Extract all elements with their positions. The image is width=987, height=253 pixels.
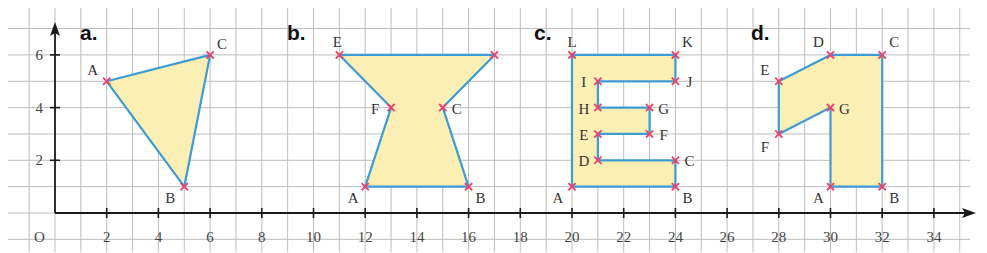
x-tick-label: 6 (206, 229, 214, 245)
coordinate-figure: O 246810121416182022242628303234246 a.AB… (0, 0, 987, 253)
panel-label: b. (287, 21, 306, 44)
point-label: F (371, 101, 379, 117)
point-label: B (682, 190, 692, 206)
x-tick-label: 18 (513, 229, 528, 245)
point-label: C (889, 34, 899, 50)
point-label: C (217, 36, 227, 52)
point-label: H (578, 101, 589, 117)
y-tick-label: 2 (36, 152, 44, 168)
point-label: B (889, 190, 899, 206)
x-tick-label: 24 (668, 229, 684, 245)
x-tick-label: 26 (720, 229, 736, 245)
point-label: I (581, 74, 586, 90)
x-tick-label: 20 (565, 229, 580, 245)
x-tick-label: 34 (926, 229, 942, 245)
point-label: B (476, 190, 486, 206)
point-label: A (553, 190, 564, 206)
x-tick-label: 28 (771, 229, 786, 245)
point-label: B (165, 190, 175, 206)
x-tick-label: 32 (875, 229, 890, 245)
shape-b (339, 55, 494, 187)
point-label: J (686, 74, 692, 90)
point-label: A (813, 190, 824, 206)
panel-label: a. (80, 21, 98, 44)
point-label: D (578, 153, 589, 169)
x-tick-label: 12 (358, 229, 373, 245)
x-tick-label: 16 (461, 229, 477, 245)
point-label: F (659, 127, 667, 143)
point-label: A (87, 62, 98, 78)
point-label: E (333, 34, 342, 50)
point-label: E (760, 62, 769, 78)
point-label: K (682, 34, 693, 50)
x-tick-label: 8 (258, 229, 266, 245)
point-label: A (348, 190, 359, 206)
point-label: C (684, 153, 694, 169)
panel-label: c. (534, 21, 552, 44)
x-tick-label: 2 (103, 229, 111, 245)
x-tick-label: 14 (409, 229, 425, 245)
point-label: F (761, 139, 769, 155)
panel-label: d. (751, 21, 770, 44)
point-label: D (813, 34, 824, 50)
point-label: G (839, 101, 850, 117)
point-label: E (579, 127, 588, 143)
y-tick-label: 4 (36, 100, 44, 116)
point-label: L (567, 34, 576, 50)
point-label: G (658, 101, 669, 117)
y-tick-label: 6 (36, 47, 44, 63)
point-labels: a.ABCb.ABCEFc.ABCDEFGHIJKLd.ABCDEFG (80, 21, 899, 206)
point-label: C (452, 101, 462, 117)
origin-label: O (34, 229, 45, 245)
x-tick-label: 30 (823, 229, 838, 245)
shape-d (779, 55, 882, 187)
x-tick-label: 10 (306, 229, 321, 245)
x-tick-label: 22 (616, 229, 631, 245)
x-tick-label: 4 (155, 229, 163, 245)
